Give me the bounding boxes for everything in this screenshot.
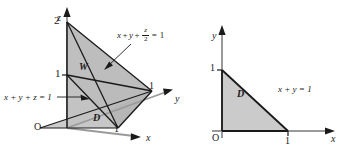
upper-eq-plus-1: + xyxy=(121,31,129,40)
right-y-axis-arrowhead xyxy=(218,25,225,35)
right-line-equation: x + y = 1 xyxy=(278,85,312,94)
left-y-tick-1: 1 xyxy=(149,81,154,91)
right-region-D-label: D xyxy=(237,89,244,99)
upper-eq-fraction-numerator: z xyxy=(144,27,147,35)
left-origin-label: O xyxy=(34,122,41,132)
lower-plane-equation: x + y + z = 1 xyxy=(4,93,52,102)
upper-eq-fraction: z 2 xyxy=(142,27,149,43)
left-x-axis-label: x xyxy=(146,133,150,143)
upper-plane-equation: x + y + z 2 = 1 xyxy=(117,27,166,43)
right-origin-label: O xyxy=(212,133,219,143)
y-axis-arrowhead xyxy=(163,89,173,96)
x-axis-arrowhead xyxy=(131,133,141,140)
right-x-tick-1: 1 xyxy=(285,136,290,146)
x-axis-line xyxy=(67,128,134,136)
upper-eq-fraction-denominator: 2 xyxy=(144,36,148,44)
left-y-axis-label: y xyxy=(175,94,179,104)
upper-eq-rhs: 1 xyxy=(158,31,166,40)
upper-eq-equals: = xyxy=(150,31,158,40)
leader-line-upper-plane xyxy=(108,44,131,66)
left-region-D-label: D xyxy=(93,113,100,123)
right-y-axis-label: y xyxy=(212,31,216,41)
diagram-svg xyxy=(0,0,343,154)
left-x-tick-1: 1 xyxy=(114,124,119,134)
right-y-tick-1: 1 xyxy=(210,63,215,73)
left-region-W-label: W xyxy=(79,62,88,72)
z-axis-arrowhead xyxy=(63,7,70,17)
left-z-tick-2: 2 xyxy=(54,15,60,26)
right-panel-2d xyxy=(212,25,335,138)
figure-canvas: z 2 1 W D O 1 x 1 y x + y + z 2 = 1 x + … xyxy=(0,0,343,154)
right-x-axis-label: x xyxy=(331,134,335,144)
upper-eq-plus-2: + xyxy=(133,31,141,40)
left-z-tick-1: 1 xyxy=(55,68,61,79)
